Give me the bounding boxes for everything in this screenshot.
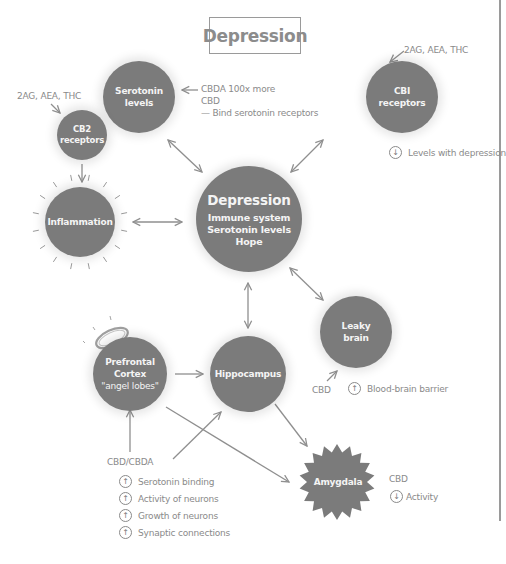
cb2-ligands-label: 2AG, AEA, THC xyxy=(17,91,81,101)
arrow-serotonin-depression xyxy=(168,140,202,172)
cb1-effect-text: Levels with depression xyxy=(408,148,506,158)
node-label: receptors xyxy=(60,135,104,146)
effect-text: Activity of neurons xyxy=(138,494,219,504)
arrow-cb1-depression xyxy=(291,140,323,172)
node-label: Hippocampus xyxy=(215,368,281,380)
node-hippocampus: Hippocampus xyxy=(210,336,286,412)
serotonin-note-line-1: CBDA 100x more xyxy=(201,84,275,94)
leaky-cbd-label: CBD xyxy=(312,385,331,395)
up-arrow-icon: ↑ xyxy=(119,526,132,539)
ray-line xyxy=(71,263,72,269)
down-arrow-icon: ↓ xyxy=(390,490,403,503)
ray-line xyxy=(40,195,45,198)
node-label: levels xyxy=(125,97,153,109)
cb1-ligands-label: 2AG, AEA, THC xyxy=(404,45,468,55)
arrow-prefrontal-amygdala xyxy=(166,407,289,482)
prefrontal-effect-item: ↑ Synaptic connections xyxy=(119,526,230,539)
leaky-effect-text: Blood-brain barrier xyxy=(367,384,448,394)
down-arrow-icon: ↓ xyxy=(389,146,402,159)
prefrontal-effect-item: ↑ Activity of neurons xyxy=(119,492,219,505)
node-leaky-brain: Leaky brain xyxy=(320,296,392,368)
node-inflammation: Inflammation xyxy=(45,187,115,257)
node-label: "angel lobes" xyxy=(101,380,158,392)
cb1-effect: ↓ Levels with depression xyxy=(389,146,506,159)
node-prefrontal-cortex: Prefrontal Cortex "angel lobes" xyxy=(93,337,167,411)
node-serotonin-levels: Serotonin levels xyxy=(103,61,175,133)
ray-line xyxy=(33,230,39,231)
node-label: Prefrontal xyxy=(105,356,155,368)
ray-line xyxy=(88,175,89,181)
node-label: Hope xyxy=(236,236,263,248)
prefrontal-source-label: CBD/CBDA xyxy=(107,457,153,467)
node-depression: Depression Immune system Serotonin level… xyxy=(196,166,302,272)
node-label: Amygdala xyxy=(314,477,363,487)
effect-text: Growth of neurons xyxy=(138,511,218,521)
arrow-hippocampus-amygdala xyxy=(275,404,307,446)
up-arrow-icon: ↑ xyxy=(348,382,361,395)
amygdala-effect-text: Activity xyxy=(406,492,438,502)
effect-text: Serotonin binding xyxy=(138,477,214,487)
node-label: Serotonin levels xyxy=(207,224,291,236)
ray-line xyxy=(103,182,106,187)
ray-line xyxy=(121,213,127,214)
node-label: brain xyxy=(343,332,368,344)
arrow-ligands-cb2 xyxy=(51,104,60,113)
up-arrow-icon: ↑ xyxy=(119,492,132,505)
node-label: CBI xyxy=(394,85,410,97)
node-cb2-receptors: CB2 receptors xyxy=(57,110,107,160)
ray-line xyxy=(53,182,56,187)
node-label: Cortex xyxy=(114,368,146,380)
node-label: receptors xyxy=(379,97,426,109)
ray-line xyxy=(103,257,106,262)
serotonin-note-line-3: — Bind serotonin receptors xyxy=(201,108,318,118)
node-title: Depression xyxy=(207,191,290,209)
amygdala-effect: ↓ Activity xyxy=(390,490,438,503)
node-cb1-receptors: CBI receptors xyxy=(366,61,438,133)
up-arrow-icon: ↑ xyxy=(119,475,132,488)
ray-line xyxy=(115,245,120,248)
ray-line xyxy=(121,230,127,231)
node-label: Serotonin xyxy=(115,85,163,97)
ray-line xyxy=(71,175,72,181)
arrow-depression-leaky-brain xyxy=(290,268,323,300)
node-label: Immune system xyxy=(208,212,290,224)
ray-line xyxy=(40,245,45,248)
effect-text: Synaptic connections xyxy=(138,528,230,538)
amygdala-cbd-label: CBD xyxy=(389,474,408,484)
node-amygdala: Amygdala xyxy=(300,472,376,492)
ray-line xyxy=(115,195,120,198)
up-arrow-icon: ↑ xyxy=(119,509,132,522)
node-label: CB2 xyxy=(73,124,91,135)
arrow-cbd-leaky-brain xyxy=(327,371,337,381)
prefrontal-effect-item: ↑ Serotonin binding xyxy=(119,475,214,488)
leaky-effect: ↑ Blood-brain barrier xyxy=(348,382,448,395)
node-label: Inflammation xyxy=(47,216,112,228)
ray-line xyxy=(33,213,39,214)
ray-line xyxy=(88,263,89,269)
prefrontal-effect-item: ↑ Growth of neurons xyxy=(119,509,218,522)
node-label: Leaky xyxy=(342,320,371,332)
serotonin-note-line-2: CBD xyxy=(201,96,220,106)
ray-line xyxy=(53,257,56,262)
